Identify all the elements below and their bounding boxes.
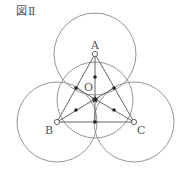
midpoint-dot-AO [93,75,97,79]
label-O: O [84,81,93,94]
point-B-marker [54,119,59,124]
label-A: A [90,39,100,52]
midpoint-dot-AC [112,86,116,90]
label-B: B [45,124,53,137]
midpoint-dot-BO [74,108,78,112]
label-C: C [137,124,145,137]
geometry-diagram: A B C O [0,0,188,174]
midpoint-dot-AB [74,86,78,90]
midpoint-dot-BC [93,120,97,124]
point-A-marker [92,51,97,56]
midpoint-dot-CO [112,108,116,112]
segment-O-AC [95,88,114,99]
point-C-marker [131,119,136,124]
